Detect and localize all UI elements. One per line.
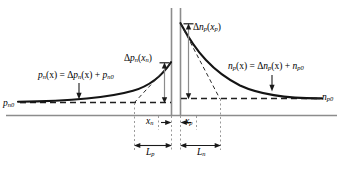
pn-eq-arg: (x) [46, 70, 57, 80]
xn-sub: n [150, 119, 153, 126]
np-eq-const-sub: p0 [297, 64, 303, 71]
np-equation-label: np(x) = Δnp(x) + np0 [228, 62, 304, 72]
xn-dimension-label: xn [146, 117, 153, 127]
Ln-sub: n [202, 150, 205, 157]
np-eq-darg: (x) [271, 61, 282, 71]
pn-junction-carrier-concentration-figure: pn(x) = Δpn(x) + pn0 np(x) = Δnp(x) + np… [0, 0, 343, 172]
Lp-sub: p [151, 150, 154, 157]
pn-eq-plus: + [92, 70, 102, 80]
pn-eq-const-sub: n0 [107, 73, 113, 80]
delta-np-xp-label: Δnp(xp) [193, 23, 221, 33]
Ln-dimension-label: Ln [197, 148, 206, 158]
pn0-axis-label: pn0 [3, 99, 14, 109]
delta-pn-xn-label: Δpn(xn) [124, 54, 152, 64]
np-equation-pointer-arrow [269, 75, 274, 92]
delta-np-xp-measurement-arrow [184, 24, 194, 100]
xp-sub: p [189, 119, 192, 126]
np-eq-equals: = [247, 61, 257, 71]
Lp-dimension-label: Lp [146, 148, 155, 158]
np-eq-plus: + [282, 61, 292, 71]
pn-x-concentration-curve [18, 62, 171, 102]
pn-eq-equals: = [57, 70, 67, 80]
delta-pn-xn-measurement-arrow [160, 63, 170, 104]
dnp-arg-close: ) [218, 22, 221, 32]
np0-axis-label: np0 [322, 93, 333, 103]
np0-sub: p0 [327, 95, 333, 102]
pn-equation-label: pn(x) = Δpn(x) + pn0 [38, 71, 114, 81]
figure-canvas [0, 0, 343, 172]
np-eq-arg: (x) [236, 61, 247, 71]
xp-dimension-label: xp [185, 117, 192, 127]
pn0-sub: n0 [8, 101, 14, 108]
pn-eq-darg: (x) [81, 70, 92, 80]
dpn-arg-close: ) [149, 53, 152, 63]
xn-dimension-arrow [161, 120, 172, 125]
pn-equation-pointer-arrow [76, 83, 81, 100]
